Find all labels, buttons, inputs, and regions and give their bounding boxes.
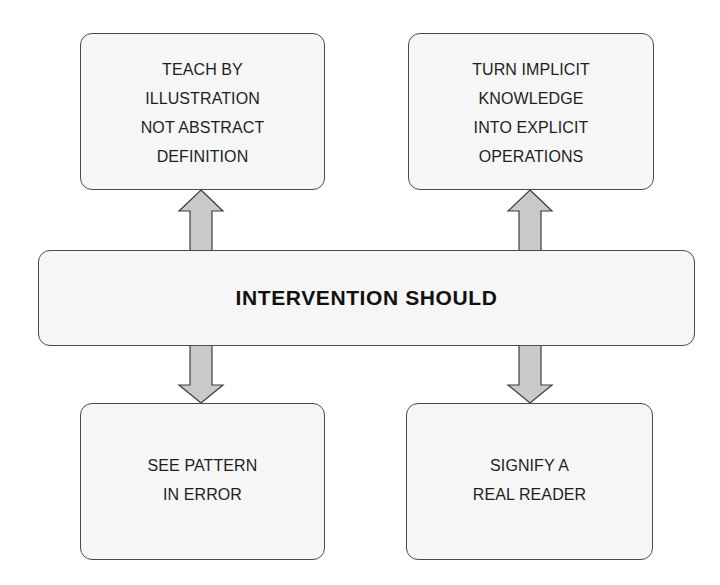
- node-teach-by-illustration: TEACH BY ILLUSTRATION NOT ABSTRACT DEFIN…: [80, 33, 325, 190]
- intervention-diagram: TEACH BY ILLUSTRATION NOT ABSTRACT DEFIN…: [0, 0, 720, 585]
- arrow-up-icon-right: [508, 190, 552, 251]
- center-node-label: INTERVENTION SHOULD: [236, 284, 498, 312]
- node-label: TURN IMPLICIT KNOWLEDGE INTO EXPLICIT OP…: [472, 53, 590, 171]
- arrow-down-icon-right: [508, 345, 552, 403]
- arrow-up-icon-left: [179, 190, 223, 251]
- node-label: SEE PATTERN IN ERROR: [148, 451, 258, 513]
- node-label: TEACH BY ILLUSTRATION NOT ABSTRACT DEFIN…: [141, 53, 265, 171]
- node-turn-implicit-knowledge: TURN IMPLICIT KNOWLEDGE INTO EXPLICIT OP…: [408, 33, 654, 190]
- center-node-intervention-should: INTERVENTION SHOULD: [38, 250, 695, 346]
- arrow-down-icon-left: [179, 345, 223, 403]
- node-label: SIGNIFY A REAL READER: [473, 451, 586, 513]
- node-signify-a-real-reader: SIGNIFY A REAL READER: [406, 403, 653, 560]
- node-see-pattern-in-error: SEE PATTERN IN ERROR: [80, 403, 325, 560]
